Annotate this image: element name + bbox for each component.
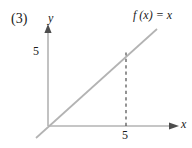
function-line-identity (36, 29, 157, 138)
function-equation-label: f (x) = x (133, 9, 172, 21)
y-axis-label: y (48, 12, 53, 24)
x-axis (48, 122, 179, 129)
x-axis-label: x (181, 118, 186, 130)
plot-canvas (0, 0, 192, 148)
y-tick-label-5: 5 (33, 45, 39, 57)
item-number-label: (3) (11, 12, 27, 26)
x-tick-label-5: 5 (122, 129, 128, 141)
y-axis-arrowhead (44, 24, 51, 33)
x-axis-arrowhead (169, 122, 179, 129)
figure-container: (3) y x f (x) = x 5 5 (0, 0, 192, 148)
y-axis (44, 24, 51, 126)
